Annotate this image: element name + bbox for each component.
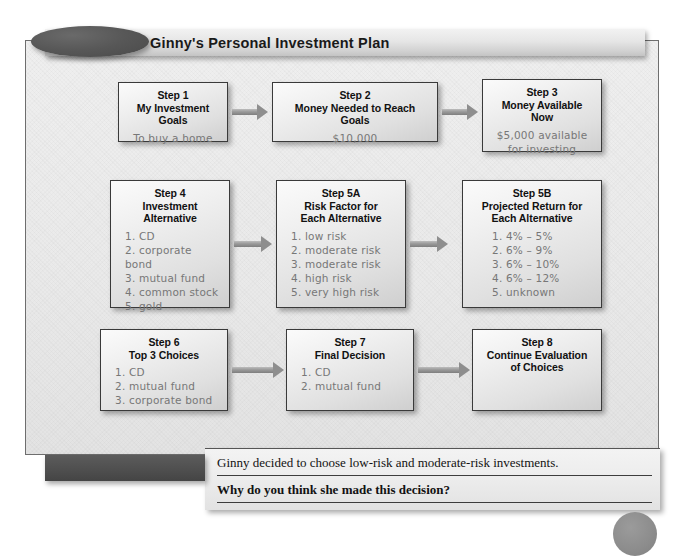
step-5a-body: 1. low risk 2. moderate risk 3. moderate… [284, 229, 398, 299]
arrow-step6-to-step7 [232, 362, 284, 378]
master-plan-statement: Ginny decided to choose low-risk and mod… [217, 453, 652, 476]
step-box-2[interactable]: Step 2 Money Needed to Reach Goals $10,0… [272, 82, 438, 142]
step-3-body: $5,000 available for investing [490, 128, 594, 156]
step-2-body: $10,000 [280, 131, 430, 145]
step-box-5a[interactable]: Step 5A Risk Factor for Each Alternative… [276, 180, 406, 308]
master-plan-bar [45, 455, 205, 481]
step-8-title: Step 8 Continue Evaluation of Choices [480, 336, 594, 374]
step-1-title: Step 1 My Investment Goals [126, 89, 220, 127]
master-plan-panel: Ginny decided to choose low-risk and mod… [205, 448, 660, 510]
arrow-step5a-to-step5b [410, 236, 448, 252]
step-box-7[interactable]: Step 7 Final Decision 1. CD 2. mutual fu… [286, 329, 414, 411]
step-box-3[interactable]: Step 3 Money Available Now $5,000 availa… [482, 79, 602, 152]
arrow-step7-to-step8 [418, 362, 470, 378]
step-2-title: Step 2 Money Needed to Reach Goals [280, 89, 430, 127]
step-box-4[interactable]: Step 4 Investment Alternative 1. CD 2. c… [110, 180, 230, 308]
step-box-8[interactable]: Step 8 Continue Evaluation of Choices [472, 329, 602, 411]
step-5a-title: Step 5A Risk Factor for Each Alternative [284, 187, 398, 225]
step-7-body: 1. CD 2. mutual fund [294, 365, 406, 393]
master-plan-question: Why do you think she made this decision? [217, 480, 652, 503]
step-5b-title: Step 5B Projected Return for Each Altern… [470, 187, 594, 225]
figure-title: Ginny's Personal Investment Plan [150, 30, 580, 56]
master-plan-label: Master Plan [0, 0, 160, 26]
step-box-1[interactable]: Step 1 My Investment Goals To buy a home [118, 82, 228, 142]
step-box-5b[interactable]: Step 5B Projected Return for Each Altern… [462, 180, 602, 308]
step-6-title: Step 6 Top 3 Choices [108, 336, 220, 361]
step-4-title: Step 4 Investment Alternative [118, 187, 222, 225]
step-1-body: To buy a home [126, 131, 220, 145]
page-corner-dot [613, 512, 657, 556]
arrow-step2-to-step3 [442, 104, 478, 120]
arrow-step1-to-step2 [232, 104, 268, 120]
step-6-body: 1. CD 2. mutual fund 3. corporate bond [108, 365, 220, 407]
step-5b-body: 1. 4% – 5% 2. 6% – 9% 3. 6% – 10% 4. 6% … [470, 229, 594, 299]
step-4-body: 1. CD 2. corporate bond 3. mutual fund 4… [118, 229, 222, 313]
step-box-6[interactable]: Step 6 Top 3 Choices 1. CD 2. mutual fun… [100, 329, 228, 411]
arrow-step4-to-step5a [234, 236, 272, 252]
step-7-title: Step 7 Final Decision [294, 336, 406, 361]
step-3-title: Step 3 Money Available Now [490, 86, 594, 124]
